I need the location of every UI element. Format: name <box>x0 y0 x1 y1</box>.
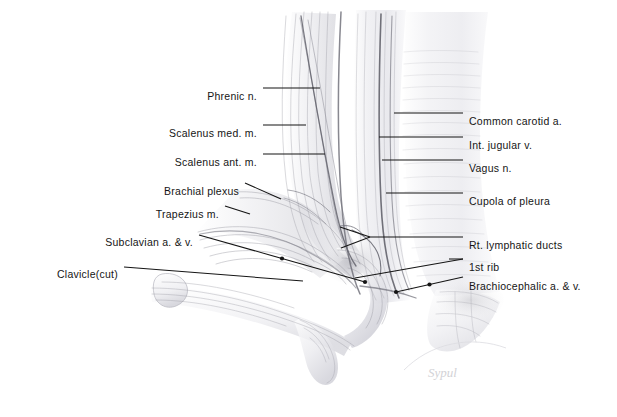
leader-clavicle-cut <box>124 267 303 281</box>
axilla-shadow <box>322 240 382 284</box>
leader-dot-mid-brachiocephalic <box>427 282 431 286</box>
leader-dot-start-brachiocephalic <box>394 290 398 294</box>
drawing-masses <box>150 10 504 385</box>
leader-dot-subclavian-vessels <box>280 256 284 260</box>
anatomy-drawing <box>0 0 617 417</box>
clavicle-cut-end <box>153 273 187 307</box>
infraclavicular-shadow <box>436 280 504 320</box>
leader-endpoint-subclavian-vessels <box>363 280 367 284</box>
right-neck-mass <box>404 12 500 296</box>
anatomical-figure: Phrenic n. Scalenus med. m. Scalenus ant… <box>0 0 617 417</box>
